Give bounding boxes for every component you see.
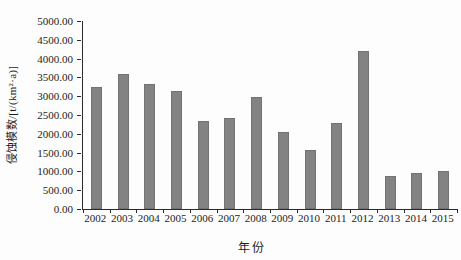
- bar-2006: [198, 121, 209, 209]
- x-axis-labels: 2002200320042005200620072008200920102011…: [82, 212, 456, 226]
- y-tick-mark: [77, 115, 81, 116]
- bar-2003: [118, 74, 129, 209]
- y-tick-label: 0.00: [54, 203, 73, 215]
- bar-2014: [411, 173, 422, 209]
- bar-2011: [331, 123, 342, 209]
- bar-2008: [251, 97, 262, 209]
- bar-2002: [91, 87, 102, 209]
- bar-2015: [438, 171, 449, 209]
- x-tick-label-2013: 2013: [378, 212, 400, 224]
- y-tick-mark: [77, 40, 81, 41]
- y-tick-label: 2500.00: [37, 109, 73, 121]
- x-tick-label-2015: 2015: [432, 212, 454, 224]
- x-tick-label-2009: 2009: [271, 212, 293, 224]
- y-tick-mark: [77, 171, 81, 172]
- x-tick-label-2011: 2011: [325, 212, 347, 224]
- x-tick-label-2012: 2012: [352, 212, 374, 224]
- y-tick-label: 2000.00: [37, 128, 73, 140]
- bar-2007: [224, 118, 235, 209]
- bar-2012: [358, 51, 369, 209]
- y-tick-label: 3500.00: [37, 71, 73, 83]
- y-tick-label: 1000.00: [37, 165, 73, 177]
- y-tick-mark: [77, 96, 81, 97]
- x-tick-label-2003: 2003: [111, 212, 133, 224]
- bar-2005: [171, 91, 182, 209]
- y-tick-mark: [77, 190, 81, 191]
- y-tick-mark: [77, 209, 81, 210]
- bar-2013: [385, 176, 396, 209]
- y-tick-mark: [77, 134, 81, 135]
- x-tick-label-2014: 2014: [405, 212, 427, 224]
- y-tick-mark: [77, 59, 81, 60]
- x-tick-label-2010: 2010: [298, 212, 320, 224]
- x-tick-label-2006: 2006: [191, 212, 213, 224]
- bar-2010: [305, 150, 316, 209]
- x-tick-label-2004: 2004: [138, 212, 160, 224]
- y-tick-label: 3000.00: [37, 90, 73, 102]
- x-tick-label-2002: 2002: [84, 212, 106, 224]
- y-tick-label: 1500.00: [37, 147, 73, 159]
- x-tick-mark: [457, 209, 458, 213]
- x-tick-label-2008: 2008: [245, 212, 267, 224]
- y-tick-label: 5000.00: [37, 15, 73, 27]
- plot-area: [82, 21, 457, 210]
- x-tick-label-2007: 2007: [218, 212, 240, 224]
- y-tick-label: 500.00: [43, 184, 73, 196]
- y-tick-label: 4000.00: [37, 53, 73, 65]
- x-tick-label-2005: 2005: [165, 212, 187, 224]
- erosion-modulus-bar-chart: 侵蚀模数/[t/(km²·a)] 5000.004500.004000.0035…: [0, 0, 461, 260]
- bar-2004: [144, 84, 155, 209]
- y-tick-mark: [77, 153, 81, 154]
- y-tick-mark: [77, 21, 81, 22]
- bar-2009: [278, 132, 289, 209]
- x-axis-title: 年份: [82, 238, 422, 256]
- y-tick-mark: [77, 77, 81, 78]
- y-axis: 5000.004500.004000.003500.003000.002500.…: [0, 21, 82, 209]
- y-tick-label: 4500.00: [37, 34, 73, 46]
